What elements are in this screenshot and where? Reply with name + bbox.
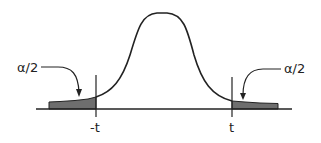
right-tail-label: α/2 [284,62,305,75]
left-tail-shaded-area [49,97,96,109]
bell-curve [96,13,232,101]
left-arrow [41,67,79,92]
right-arrow-head [240,93,246,100]
right-tail-shaded-area [232,101,278,109]
t-distribution-diagram: α/2 α/2 -t t [0,0,321,143]
diagram-canvas [0,0,321,143]
right-arrow [243,69,281,95]
left-arrow-head [76,89,82,97]
left-critical-label: -t [90,121,100,134]
left-tail-label: α/2 [17,61,38,74]
right-critical-label: t [229,121,234,134]
